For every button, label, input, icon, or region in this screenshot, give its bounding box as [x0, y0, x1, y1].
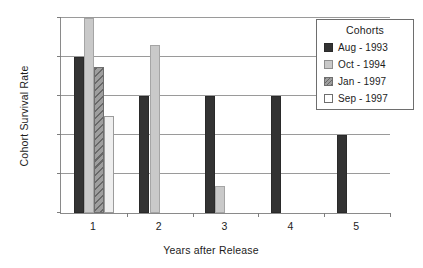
bar	[104, 116, 114, 214]
legend-item: Oct - 1994	[317, 56, 413, 73]
legend-item: Sep - 1997	[317, 90, 413, 107]
x-tick-mark	[258, 213, 259, 217]
legend-item: Aug - 1993	[317, 39, 413, 56]
legend-swatch-icon	[324, 94, 333, 103]
x-tick-label: 3	[205, 220, 245, 232]
x-tick-mark	[390, 213, 391, 217]
y-tick-mark	[57, 212, 61, 213]
x-tick-label: 1	[73, 220, 113, 232]
bar	[337, 135, 347, 213]
legend-swatch-icon	[324, 60, 333, 69]
legend-item-label: Aug - 1993	[338, 42, 388, 53]
bar	[139, 96, 149, 213]
x-tick-mark	[324, 213, 325, 217]
x-axis-title: Years after Release	[56, 244, 366, 256]
legend-item-label: Jan - 1997	[338, 76, 386, 87]
x-tick-label: 5	[336, 220, 376, 232]
bar	[271, 96, 281, 213]
x-tick-mark	[127, 213, 128, 217]
legend: Cohorts Aug - 1993Oct - 1994Jan - 1997Se…	[316, 19, 414, 110]
bar	[94, 67, 104, 213]
legend-swatch-icon	[324, 43, 333, 52]
y-tick-mark	[57, 95, 61, 96]
bar	[150, 45, 160, 213]
legend-items: Aug - 1993Oct - 1994Jan - 1997Sep - 1997	[317, 39, 413, 107]
bar	[205, 96, 215, 213]
x-tick-label: 4	[270, 220, 310, 232]
bar	[215, 186, 225, 213]
y-tick-mark	[57, 56, 61, 57]
legend-item: Jan - 1997	[317, 73, 413, 90]
bar	[74, 57, 84, 213]
y-tick-mark	[57, 134, 61, 135]
legend-item-label: Sep - 1997	[338, 93, 388, 104]
x-tick-mark	[193, 213, 194, 217]
bar	[84, 18, 94, 213]
legend-swatch-icon	[324, 77, 333, 86]
legend-title: Cohorts	[317, 24, 413, 36]
y-axis-title: Cohort Survival Rate	[18, 26, 30, 206]
bar-chart: Cohort Survival Rate 00.20.40.60.81 1234…	[0, 0, 423, 268]
x-tick-label: 2	[139, 220, 179, 232]
gridline	[61, 17, 390, 18]
legend-item-label: Oct - 1994	[338, 59, 386, 70]
y-tick-mark	[57, 17, 61, 18]
y-tick-mark	[57, 173, 61, 174]
